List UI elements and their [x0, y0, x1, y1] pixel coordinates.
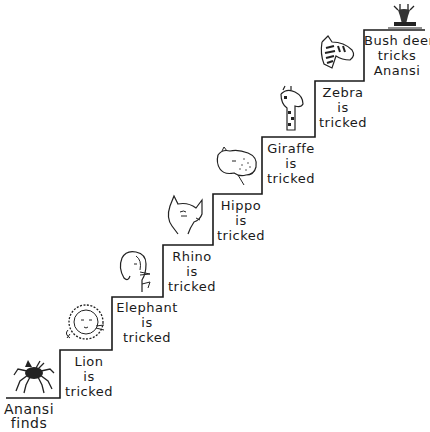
step-label-anansi-finds: Anansi finds — [0, 402, 58, 430]
zebra-icon — [318, 34, 358, 74]
label-line: Giraffe — [263, 141, 319, 156]
label-line: Zebra — [316, 85, 370, 100]
giraffe-icon — [275, 84, 311, 134]
label-line: tricked — [62, 384, 116, 399]
step-label-giraffe: Giraffe is tricked — [263, 141, 319, 186]
step-label-hippo: Hippo is tricked — [214, 198, 268, 243]
label-line: is — [165, 264, 219, 279]
label-line: is — [214, 213, 268, 228]
label-line: tricks — [364, 48, 430, 63]
label-line: Rhino — [165, 249, 219, 264]
step-label-bushdeer: Bush deer tricks Anansi — [364, 33, 430, 78]
label-line: Elephant — [112, 300, 182, 315]
label-line: tricked — [263, 171, 319, 186]
label-line: tricked — [112, 330, 182, 345]
label-line: tricked — [316, 115, 370, 130]
elephant-icon — [116, 248, 160, 294]
label-line: Anansi — [364, 63, 430, 78]
rhino-icon — [164, 194, 210, 242]
bush-deer-icon — [388, 2, 422, 30]
label-line: Lion — [62, 354, 116, 369]
label-line: finds — [0, 416, 58, 430]
label-line: is — [62, 369, 116, 384]
label-line: is — [316, 100, 370, 115]
label-line: tricked — [214, 228, 268, 243]
label-line: Anansi — [0, 402, 58, 416]
label-line: is — [263, 156, 319, 171]
step-label-zebra: Zebra is tricked — [316, 85, 370, 130]
step-label-elephant: Elephant is tricked — [112, 300, 182, 345]
hippo-icon — [214, 145, 260, 189]
label-line: is — [112, 315, 182, 330]
lion-icon — [60, 300, 108, 346]
label-line: Hippo — [214, 198, 268, 213]
label-line: Bush deer — [364, 33, 430, 48]
label-line: tricked — [165, 279, 219, 294]
step-label-lion: Lion is tricked — [62, 354, 116, 399]
step-label-rhino: Rhino is tricked — [165, 249, 219, 294]
spider-icon — [10, 355, 58, 395]
